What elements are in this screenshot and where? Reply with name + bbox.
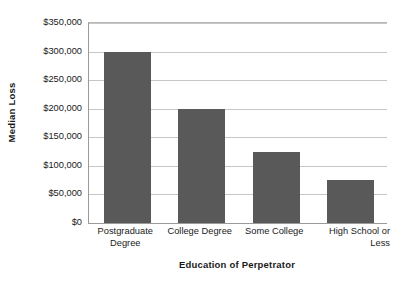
y-axis-tick-label: $50,000 [24, 188, 82, 198]
x-axis-tick-labels: PostgraduateDegreeCollege DegreeSome Col… [88, 226, 386, 256]
bar [104, 52, 151, 223]
bar [253, 152, 300, 223]
y-axis-tick-label: $300,000 [24, 46, 82, 56]
x-axis-tick-label: College Degree [159, 226, 242, 238]
x-axis-title: Education of Perpetrator [88, 259, 386, 270]
y-axis-tick-label: $0 [24, 217, 82, 227]
x-axis-tick-label: PostgraduateDegree [84, 226, 167, 249]
x-axis-tick-label-line: College Degree [159, 226, 242, 238]
x-axis-tick-label-line: Degree [84, 238, 167, 250]
y-axis-title: Median Loss [0, 0, 24, 225]
bar [178, 109, 225, 223]
x-axis-tick-label: Some College [233, 226, 316, 238]
y-axis-tick-label: $200,000 [24, 103, 82, 113]
plot-area [88, 22, 387, 224]
bar [327, 180, 374, 223]
y-axis-tick-label: $250,000 [24, 74, 82, 84]
x-axis-tick-label-line: Some College [233, 226, 316, 238]
y-axis-tick-label: $350,000 [24, 17, 82, 27]
bar-chart-figure: Median Loss $0$50,000$100,000$150,000$20… [0, 0, 408, 285]
x-axis-tick-label-line: Less [308, 238, 391, 250]
y-axis-tick-label: $150,000 [24, 131, 82, 141]
y-axis-tick-labels: $0$50,000$100,000$150,000$200,000$250,00… [24, 0, 86, 232]
x-axis-tick-label-line: Postgraduate [84, 226, 167, 238]
bars-layer [89, 23, 387, 223]
x-axis-tick-label: High School orLess [308, 226, 391, 249]
x-axis-tick-label-line: High School or [308, 226, 391, 238]
y-axis-tick-label: $100,000 [24, 160, 82, 170]
y-axis-title-text: Median Loss [7, 83, 18, 143]
